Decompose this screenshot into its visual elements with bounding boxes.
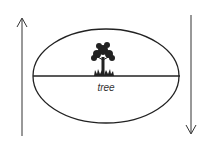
diagram: tree <box>0 0 206 141</box>
tree-icon <box>91 42 115 76</box>
tree-label: tree <box>97 82 115 93</box>
up-arrow-icon <box>17 18 27 136</box>
down-arrow-icon <box>186 15 196 134</box>
